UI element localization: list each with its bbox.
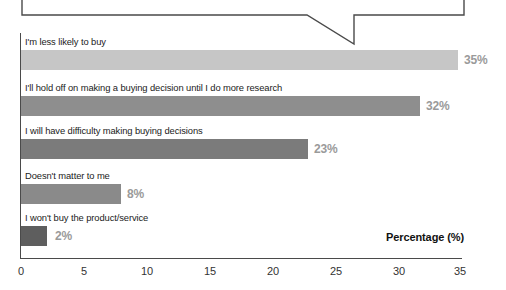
bar-value-label: 8% bbox=[127, 187, 144, 201]
x-tick-label: 5 bbox=[81, 265, 87, 277]
x-tick-label: 35 bbox=[454, 265, 466, 277]
bar-chart-plot-area: I'm less likely to buy 35% I'll hold off… bbox=[0, 0, 506, 290]
x-tick-label: 15 bbox=[204, 265, 216, 277]
bar-value-label: 2% bbox=[55, 229, 72, 243]
x-tick-label: 10 bbox=[141, 265, 153, 277]
chart-screenshot: I'm less likely to buy 35% I'll hold off… bbox=[0, 0, 506, 290]
y-axis-line bbox=[20, 33, 21, 259]
bar-segment[interactable] bbox=[21, 50, 458, 70]
bar-segment[interactable] bbox=[21, 139, 308, 159]
x-tick-label: 0 bbox=[18, 265, 24, 277]
category-label: Doesn't matter to me bbox=[25, 170, 110, 181]
bar-segment[interactable] bbox=[21, 184, 121, 204]
x-axis-title: Percentage (%) bbox=[386, 231, 464, 243]
category-label: I won't buy the product/service bbox=[25, 212, 148, 223]
x-axis-line bbox=[20, 258, 462, 259]
category-label: I'll hold off on making a buying decisio… bbox=[25, 82, 282, 93]
category-label: I'm less likely to buy bbox=[25, 36, 106, 47]
bar-segment[interactable] bbox=[21, 96, 420, 116]
bar-value-label: 35% bbox=[464, 53, 487, 67]
x-tick-label: 25 bbox=[330, 265, 342, 277]
bar-segment[interactable] bbox=[21, 226, 47, 246]
x-tick-label: 30 bbox=[393, 265, 405, 277]
bar-value-label: 32% bbox=[426, 99, 449, 113]
x-tick-label: 20 bbox=[267, 265, 279, 277]
category-label: I will have difficulty making buying dec… bbox=[25, 125, 203, 136]
bar-value-label: 23% bbox=[314, 142, 337, 156]
